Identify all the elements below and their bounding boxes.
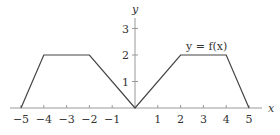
y-tick-label: 3 — [122, 23, 129, 36]
x-tick-label: 1 — [154, 113, 161, 126]
x-tick-label: −5 — [13, 113, 29, 126]
x-tick-label: −1 — [104, 113, 120, 126]
x-axis-label: x — [268, 102, 275, 115]
x-tick-label: 5 — [246, 113, 253, 126]
x-tick-label: −3 — [58, 113, 74, 126]
axis-ticks: −5−4−3−2−112345123 — [13, 23, 253, 127]
function-label: y = f(x) — [185, 40, 227, 53]
x-tick-label: 3 — [200, 113, 207, 126]
x-tick-label: 4 — [223, 113, 230, 126]
x-tick-label: −2 — [81, 113, 97, 126]
function-graph: −5−4−3−2−112345123 x y y = f(x) — [0, 0, 280, 135]
graph-canvas: −5−4−3−2−112345123 x y y = f(x) — [0, 0, 280, 135]
y-axis-label: y — [131, 3, 139, 16]
y-tick-label: 2 — [122, 49, 129, 62]
x-tick-label: 2 — [177, 113, 184, 126]
axes — [10, 18, 262, 108]
y-tick-label: 1 — [122, 76, 129, 89]
x-tick-label: −4 — [36, 113, 52, 126]
